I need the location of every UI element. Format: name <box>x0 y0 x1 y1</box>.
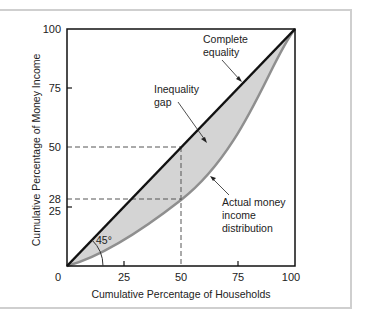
arrow-actual <box>212 178 229 195</box>
annotation-equality: equality <box>203 46 240 58</box>
arrowhead-actual <box>210 176 216 181</box>
y-axis-title: Cumulative Percentage of Money Income <box>30 54 42 247</box>
y-tick-label-100: 100 <box>43 23 61 35</box>
annotation-inequality: Inequality <box>154 83 200 95</box>
x-tick-label-75: 75 <box>232 271 244 283</box>
arrow-equality <box>222 60 240 80</box>
origin-label: 0 <box>55 271 61 283</box>
annotation-gap: gap <box>154 96 172 108</box>
x-tick-label-25: 25 <box>118 271 130 283</box>
y-tick-label-50: 50 <box>49 141 61 153</box>
annotation-complete: Complete <box>203 33 248 45</box>
annotation-actual-1: Actual money <box>222 196 286 208</box>
annotation-actual-3: distribution <box>222 222 273 234</box>
y-tick-label-75: 75 <box>49 82 61 94</box>
y-tick-label-25: 25 <box>49 205 61 217</box>
x-tick-label-100: 100 <box>282 271 300 283</box>
arrow-gap <box>178 102 205 140</box>
annotation-actual-2: income <box>222 209 256 221</box>
x-axis-title: Cumulative Percentage of Households <box>91 288 270 300</box>
angle-label: 45° <box>96 234 112 246</box>
y-tick-label-28: 28 <box>49 193 61 205</box>
lorenz-chart: 100 75 50 28 25 0 25 50 75 100 Cumulativ… <box>0 0 367 317</box>
x-tick-label-50: 50 <box>175 271 187 283</box>
